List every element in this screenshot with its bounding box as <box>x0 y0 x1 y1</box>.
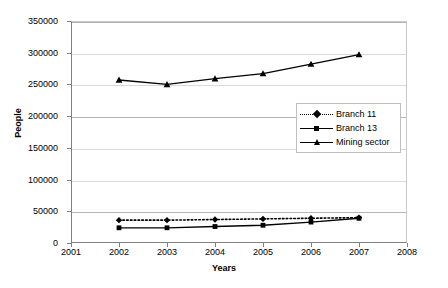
x-tick-label: 2001 <box>61 247 81 257</box>
x-tick-label: 2005 <box>253 247 273 257</box>
y-axis: 350000 300000 250000 200000 150000 10000… <box>0 0 68 288</box>
y-tick-mark <box>67 84 71 85</box>
legend-key-square-icon <box>300 122 333 134</box>
x-tick-label: 2002 <box>109 247 129 257</box>
y-tick-mark <box>67 211 71 212</box>
y-tick-mark <box>67 53 71 54</box>
x-tick-label: 2008 <box>397 247 417 257</box>
x-axis-title: Years <box>0 263 448 273</box>
y-tick-mark <box>67 148 71 149</box>
x-tick-label: 2006 <box>301 247 321 257</box>
x-tick-label: 2003 <box>157 247 177 257</box>
y-tick-mark <box>67 21 71 22</box>
gridline-350000 <box>72 22 406 23</box>
y-axis-title: People <box>13 93 23 153</box>
y-tick-label: 300000 <box>28 48 58 58</box>
gridline-250000 <box>72 85 406 86</box>
gridline-50000 <box>72 212 406 213</box>
gridline-300000 <box>72 54 406 55</box>
y-tick-label: 250000 <box>28 79 58 89</box>
legend-key-diamond-icon <box>300 108 333 120</box>
legend-label: Mining sector <box>336 137 390 147</box>
x-tick-label: 2007 <box>349 247 369 257</box>
y-tick-mark <box>67 180 71 181</box>
y-tick-label: 150000 <box>28 143 58 153</box>
legend-item-branch-13: Branch 13 <box>300 121 396 135</box>
y-tick-label: 200000 <box>28 111 58 121</box>
legend-key-triangle-icon <box>300 136 333 148</box>
legend-item-branch-11: Branch 11 <box>300 107 396 121</box>
legend-label: Branch 13 <box>336 123 377 133</box>
legend-item-mining-sector: Mining sector <box>300 135 396 149</box>
y-tick-mark <box>67 116 71 117</box>
gridline-100000 <box>72 181 406 182</box>
line-chart: 350000 300000 250000 200000 150000 10000… <box>0 0 448 288</box>
legend-label: Branch 11 <box>336 109 376 119</box>
legend: Branch 11 Branch 13 Mining sector <box>296 103 401 153</box>
y-tick-label: 100000 <box>28 175 58 185</box>
y-tick-label: 50000 <box>33 206 58 216</box>
y-tick-label: 350000 <box>28 16 58 26</box>
x-tick-label: 2004 <box>205 247 225 257</box>
